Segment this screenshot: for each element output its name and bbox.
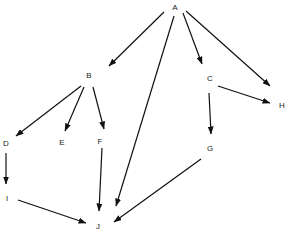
edge-a-to-j xyxy=(116,16,174,206)
node-h: H xyxy=(279,101,285,110)
node-i: I xyxy=(6,194,8,203)
edge-b-to-d xyxy=(16,86,81,136)
node-b: B xyxy=(86,71,91,80)
nodes-layer: ABCHDEFGIJ xyxy=(3,3,285,231)
edge-i-to-j xyxy=(18,200,86,223)
edge-a-to-b xyxy=(109,12,164,66)
node-d: D xyxy=(3,139,9,148)
graph-canvas: ABCHDEFGIJ xyxy=(0,0,293,252)
node-c: C xyxy=(207,74,213,83)
edge-a-to-h xyxy=(186,11,270,86)
directed-graph-diagram: ABCHDEFGIJ xyxy=(0,0,293,252)
edges-layer xyxy=(6,11,270,223)
node-g: G xyxy=(207,144,213,153)
edge-c-to-h xyxy=(218,86,270,103)
edge-a-to-c xyxy=(183,13,202,64)
node-j: J xyxy=(96,222,100,231)
edge-c-to-g xyxy=(209,93,211,134)
edge-b-to-e xyxy=(65,87,84,131)
node-a: A xyxy=(172,3,178,12)
node-f: F xyxy=(98,137,103,146)
edge-b-to-f xyxy=(93,87,104,129)
edge-f-to-j xyxy=(99,148,102,211)
node-e: E xyxy=(59,138,64,147)
